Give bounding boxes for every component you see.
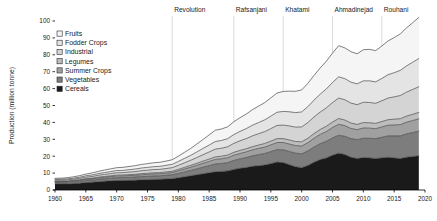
y-axis-tick-labels: 0102030405060708090100	[39, 17, 55, 193]
era-label-rouhani: Rouhani	[384, 6, 409, 13]
legend-label-cereals: Cereals	[65, 85, 89, 92]
legend-swatch-cereals	[57, 86, 62, 91]
x-tick-label: 2005	[325, 195, 340, 202]
y-tick-label: 90	[43, 34, 51, 41]
y-tick-label: 80	[43, 51, 51, 58]
era-label-rafsanjani: Rafsanjani	[236, 6, 268, 14]
legend-swatch-industrial	[57, 49, 62, 54]
legend-label-summer-crops: Summer Crops	[65, 67, 112, 75]
x-tick-label: 1975	[140, 195, 155, 202]
chart-canvas: 1960196519701975198019851990199520002005…	[0, 0, 437, 221]
legend-swatch-legumes	[57, 59, 62, 64]
x-tick-label: 1985	[202, 195, 217, 202]
era-marker-labels: RevolutionRafsanjaniKhatamiAhmadinejadRo…	[174, 6, 409, 14]
y-tick-label: 70	[43, 68, 51, 75]
y-tick-label: 40	[43, 119, 51, 126]
y-tick-label: 0	[46, 186, 50, 193]
x-tick-label: 2015	[387, 195, 402, 202]
x-tick-label: 1970	[110, 195, 125, 202]
legend-label-industrial: Industrial	[65, 48, 93, 55]
y-tick-label: 20	[43, 153, 51, 160]
y-tick-label: 10	[43, 169, 51, 176]
x-tick-label: 1990	[233, 195, 248, 202]
era-label-revolution: Revolution	[174, 6, 205, 13]
era-label-khatami: Khatami	[285, 6, 310, 13]
legend-swatch-vegetables	[57, 77, 62, 82]
legend-label-vegetables: Vegetables	[65, 76, 100, 84]
x-axis-tick-labels: 1960196519701975198019851990199520002005…	[48, 190, 433, 202]
x-tick-label: 2020	[418, 195, 433, 202]
stacked-area-bands	[55, 17, 419, 190]
y-tick-label: 30	[43, 136, 51, 143]
y-tick-label: 100	[39, 17, 50, 24]
x-tick-label: 1965	[79, 195, 94, 202]
y-axis-title: Production (million tonne)	[8, 67, 16, 144]
legend-swatch-fruits	[57, 31, 62, 36]
legend-label-fodder-crops: Fodder Crops	[65, 39, 108, 47]
stacked-area-chart: 1960196519701975198019851990199520002005…	[0, 0, 437, 221]
y-tick-label: 60	[43, 85, 51, 92]
x-tick-label: 2010	[356, 195, 371, 202]
chart-legend: FruitsFodder CropsIndustrialLegumesSumme…	[57, 30, 112, 92]
y-tick-label: 50	[43, 102, 51, 109]
era-label-ahmadinejad: Ahmadinejad	[335, 6, 374, 14]
legend-swatch-summer-crops	[57, 68, 62, 73]
x-tick-label: 1995	[264, 195, 279, 202]
legend-label-fruits: Fruits	[65, 30, 83, 37]
x-tick-label: 2000	[295, 195, 310, 202]
legend-swatch-fodder-crops	[57, 40, 62, 45]
x-tick-label: 1960	[48, 195, 63, 202]
legend-label-legumes: Legumes	[65, 58, 94, 66]
x-tick-label: 1980	[171, 195, 186, 202]
